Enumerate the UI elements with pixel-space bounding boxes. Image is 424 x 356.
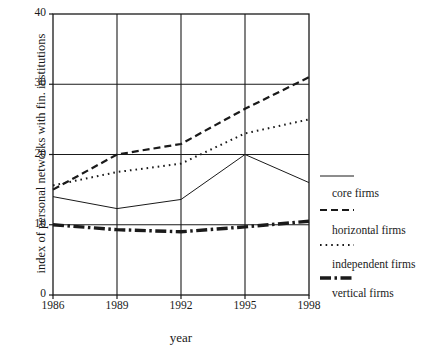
x-tick-label: 1995 <box>225 299 265 311</box>
tick-marks <box>49 14 309 299</box>
gridlines <box>53 14 309 295</box>
legend-item-label: horizontal firms <box>332 224 406 236</box>
legend-item-label: core firms <box>332 187 379 199</box>
x-tick-label: 1986 <box>33 299 73 311</box>
x-tick-label: 1998 <box>289 299 329 311</box>
x-axis-label: year <box>53 330 309 346</box>
y-tick-label: 30 <box>18 76 46 88</box>
y-tick-label: 20 <box>18 147 46 159</box>
x-tick-label: 1989 <box>97 299 137 311</box>
y-tick-label: 10 <box>18 217 46 229</box>
legend-item-label: independent firms <box>332 258 415 270</box>
y-tick-label: 40 <box>18 6 46 18</box>
chart-figure: index of personal networks with fin. ins… <box>0 0 424 356</box>
legend-item-label: vertical firms <box>332 287 394 299</box>
x-tick-label: 1992 <box>161 299 201 311</box>
y-tick-label: 0 <box>18 287 46 299</box>
